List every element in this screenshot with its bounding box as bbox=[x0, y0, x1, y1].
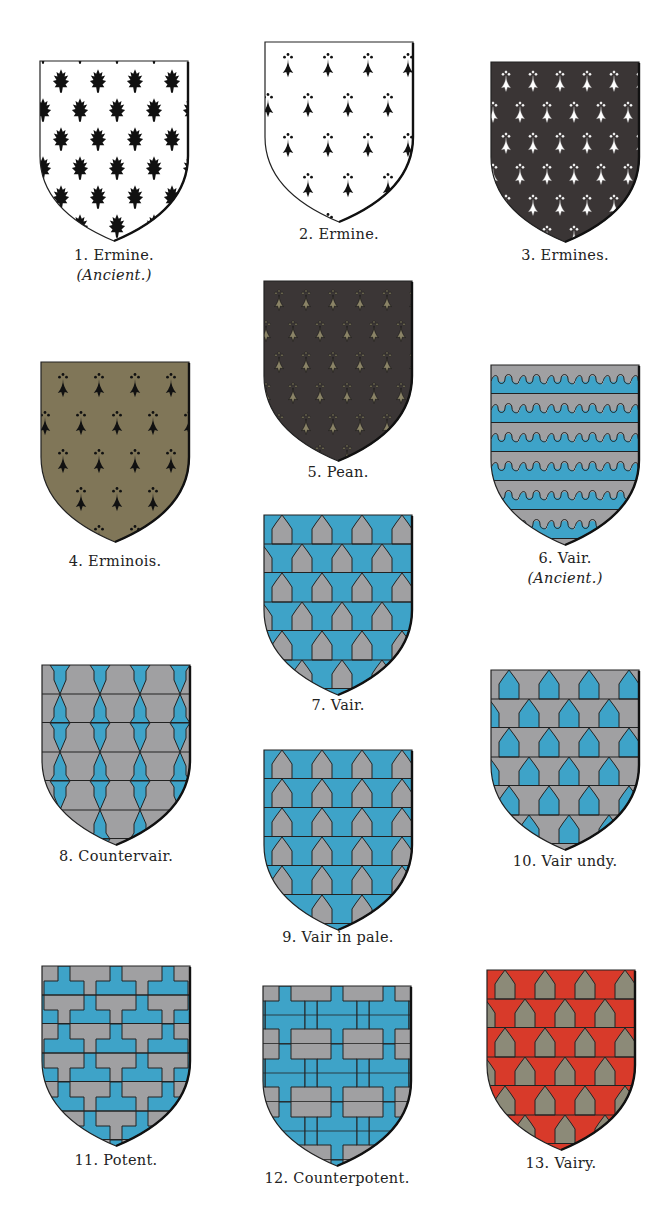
caption-sub: (Ancient.) bbox=[491, 568, 639, 588]
caption-name: Erminois. bbox=[88, 553, 161, 569]
shield-3-ermines bbox=[491, 62, 639, 242]
caption-number: 12. bbox=[264, 1170, 288, 1186]
caption-9: 9. Vair in pale. bbox=[249, 927, 427, 947]
caption-number: 3. bbox=[521, 247, 535, 263]
shield-1-ermine-ancient bbox=[40, 61, 188, 241]
shield-10-vair-undy bbox=[491, 670, 639, 850]
caption-10: 10. Vair undy. bbox=[481, 851, 649, 871]
caption-name: Vair in pale. bbox=[302, 929, 394, 945]
caption-number: 4. bbox=[69, 553, 83, 569]
caption-name: Potent. bbox=[103, 1152, 157, 1168]
caption-name: Counterpotent. bbox=[293, 1170, 409, 1186]
caption-6: 6. Vair. (Ancient.) bbox=[491, 548, 639, 588]
caption-12: 12. Counterpotent. bbox=[238, 1168, 436, 1188]
shield-13-vairy bbox=[487, 970, 635, 1150]
shield-12-counterpotent bbox=[263, 986, 411, 1166]
caption-number: 8. bbox=[59, 848, 73, 864]
caption-number: 2. bbox=[299, 226, 313, 242]
caption-name: Ermines. bbox=[541, 247, 609, 263]
heraldry-plate: 1. Ermine. (Ancient.) 2. Ermine. 3. Ermi… bbox=[0, 0, 664, 1206]
caption-2: 2. Ermine. bbox=[265, 224, 413, 244]
caption-number: 10. bbox=[513, 853, 537, 869]
caption-4: 4. Erminois. bbox=[41, 551, 189, 571]
shield-2-ermine bbox=[265, 42, 413, 222]
caption-3: 3. Ermines. bbox=[491, 245, 639, 265]
caption-name: Vair. bbox=[331, 697, 365, 713]
caption-name: Vair. bbox=[558, 550, 592, 566]
caption-1: 1. Ermine. (Ancient.) bbox=[40, 245, 188, 285]
caption-name: Vairy. bbox=[554, 1155, 596, 1171]
shield-5-pean bbox=[264, 281, 412, 461]
caption-11: 11. Potent. bbox=[42, 1150, 190, 1170]
caption-number: 5. bbox=[307, 464, 321, 480]
caption-name: Vair undy. bbox=[542, 853, 618, 869]
caption-number: 9. bbox=[282, 929, 296, 945]
caption-5: 5. Pean. bbox=[264, 462, 412, 482]
caption-number: 1. bbox=[74, 247, 88, 263]
caption-number: 6. bbox=[538, 550, 552, 566]
shield-4-erminois bbox=[41, 362, 189, 542]
caption-13: 13. Vairy. bbox=[487, 1153, 635, 1173]
caption-number: 13. bbox=[526, 1155, 550, 1171]
shield-7-vair bbox=[264, 515, 412, 695]
shield-11-potent bbox=[42, 966, 190, 1146]
caption-number: 11. bbox=[74, 1152, 98, 1168]
caption-number: 7. bbox=[311, 697, 325, 713]
caption-8: 8. Countervair. bbox=[32, 846, 200, 866]
caption-sub: (Ancient.) bbox=[40, 265, 188, 285]
caption-name: Countervair. bbox=[78, 848, 173, 864]
shield-8-countervair bbox=[42, 665, 190, 845]
caption-name: Ermine. bbox=[318, 226, 379, 242]
shield-9-vair-in-pale bbox=[264, 750, 412, 930]
caption-name: Ermine. bbox=[93, 247, 154, 263]
caption-7: 7. Vair. bbox=[264, 695, 412, 715]
shield-6-vair-ancient bbox=[491, 365, 639, 545]
caption-name: Pean. bbox=[327, 464, 369, 480]
